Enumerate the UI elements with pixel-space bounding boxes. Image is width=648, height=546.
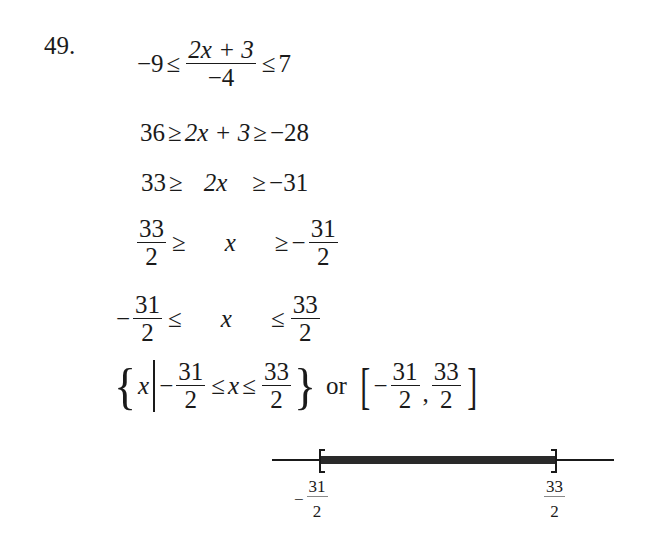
set-variable: x bbox=[138, 372, 149, 400]
fraction-numerator: 33 bbox=[291, 292, 320, 318]
step-3-op1: ≥ bbox=[166, 169, 186, 197]
fraction-numerator: 31 bbox=[307, 478, 328, 496]
step-1-right: 7 bbox=[279, 50, 292, 78]
problem-number: 49. bbox=[44, 33, 75, 58]
solution-op2: ≤ bbox=[239, 372, 259, 400]
step-5: − 31 2 ≤ x ≤ 33 2 bbox=[116, 286, 323, 352]
interval-close-bracket: ] bbox=[467, 361, 477, 411]
left-label-fraction: 31 2 bbox=[307, 478, 328, 522]
step-1-op1: ≤ bbox=[164, 50, 184, 78]
step-5-left-fraction: 31 2 bbox=[133, 292, 162, 347]
right-bracket-cap-top bbox=[551, 449, 557, 451]
upper-bound-fraction: 33 2 bbox=[262, 359, 291, 414]
step-2-op2: ≥ bbox=[250, 119, 270, 147]
fraction-numerator: 33 bbox=[137, 216, 166, 242]
step-1: −9 ≤ 2x + 3 −4 ≤ 7 bbox=[137, 30, 291, 98]
interval-lower-sign: − bbox=[373, 372, 387, 400]
set-close-brace: } bbox=[294, 361, 316, 412]
fraction-denominator: 2 bbox=[143, 243, 160, 271]
step-5-left-sign: − bbox=[116, 305, 130, 333]
step-4: 33 2 ≥ x ≥ − 31 2 bbox=[134, 210, 341, 276]
step-3-middle: 2x bbox=[204, 169, 228, 197]
right-label-fraction: 33 2 bbox=[544, 478, 565, 522]
fraction-numerator: 31 bbox=[133, 292, 162, 318]
fraction-denominator: 2 bbox=[397, 386, 414, 414]
fraction-denominator: 2 bbox=[548, 503, 561, 522]
solution-variable: x bbox=[228, 372, 239, 400]
step-2: 36 ≥ 2x + 3 ≥ −28 bbox=[140, 118, 309, 148]
fraction-numerator: 33 bbox=[544, 478, 565, 496]
connector-or: or bbox=[326, 372, 347, 400]
fraction-denominator: 2 bbox=[268, 386, 285, 414]
interval-upper-fraction: 33 2 bbox=[432, 359, 461, 414]
fraction-denominator: 2 bbox=[183, 386, 200, 414]
interval-open-bracket: [ bbox=[360, 361, 370, 411]
step-5-middle: x bbox=[221, 305, 232, 333]
step-3-right: −31 bbox=[269, 169, 308, 197]
step-2-middle: 2x + 3 bbox=[185, 119, 250, 147]
set-open-brace: { bbox=[114, 361, 136, 412]
step-2-left: 36 bbox=[140, 119, 165, 147]
right-endpoint-label: 33 2 bbox=[541, 478, 568, 522]
fraction-denominator: 2 bbox=[297, 319, 314, 347]
fraction-denominator: 2 bbox=[315, 243, 332, 271]
step-5-op2: ≤ bbox=[268, 305, 288, 333]
interval-lower-fraction: 31 2 bbox=[391, 359, 420, 414]
step-1-left: −9 bbox=[137, 50, 164, 78]
left-label-sign: − bbox=[294, 490, 304, 510]
fraction-denominator: 2 bbox=[438, 386, 455, 414]
fraction-denominator: 2 bbox=[139, 319, 156, 347]
solution-op1: ≤ bbox=[208, 372, 228, 400]
left-bracket-cap-bottom bbox=[319, 471, 325, 473]
solution-set: { x − 31 2 ≤ x ≤ 33 2 } or [ − 31 2 , 33… bbox=[114, 350, 480, 422]
fraction-numerator: 33 bbox=[432, 359, 461, 385]
step-4-right-sign: − bbox=[292, 229, 306, 257]
step-4-left-fraction: 33 2 bbox=[137, 216, 166, 271]
interval-comma: , bbox=[423, 380, 429, 408]
step-2-op1: ≥ bbox=[165, 119, 185, 147]
step-5-right-fraction: 33 2 bbox=[291, 292, 320, 347]
step-1-fraction: 2x + 3 −4 bbox=[186, 37, 255, 92]
step-2-right: −28 bbox=[270, 119, 309, 147]
fraction-denominator: 2 bbox=[311, 503, 324, 522]
step-4-right-fraction: 31 2 bbox=[309, 216, 338, 271]
right-bracket-cap-bottom bbox=[551, 471, 557, 473]
fraction-numerator: 2x + 3 bbox=[186, 37, 255, 63]
step-3-op2: ≥ bbox=[249, 169, 269, 197]
left-closed-bracket bbox=[319, 449, 321, 473]
step-4-middle: x bbox=[225, 229, 236, 257]
fraction-bar bbox=[307, 496, 328, 497]
step-4-op1: ≥ bbox=[169, 229, 189, 257]
step-4-op2: ≥ bbox=[272, 229, 292, 257]
left-bracket-cap-top bbox=[319, 449, 325, 451]
step-3: 33 ≥ 2x ≥ −31 bbox=[141, 168, 308, 198]
fraction-numerator: 33 bbox=[262, 359, 291, 385]
lower-sign: − bbox=[159, 372, 173, 400]
number-line-solution-segment bbox=[320, 456, 556, 464]
right-closed-bracket bbox=[555, 449, 557, 473]
fraction-bar bbox=[544, 496, 565, 497]
fraction-numerator: 31 bbox=[309, 216, 338, 242]
left-endpoint-label: − 31 2 bbox=[294, 478, 331, 522]
fraction-numerator: 31 bbox=[176, 359, 205, 385]
lower-bound-fraction: 31 2 bbox=[176, 359, 205, 414]
step-1-op2: ≤ bbox=[259, 50, 279, 78]
such-that-bar bbox=[153, 360, 155, 412]
step-3-left: 33 bbox=[141, 169, 166, 197]
fraction-numerator: 31 bbox=[391, 359, 420, 385]
fraction-denominator: −4 bbox=[206, 64, 237, 92]
step-5-op1: ≤ bbox=[165, 305, 185, 333]
